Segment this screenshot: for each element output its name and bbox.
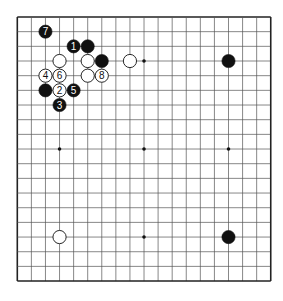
black-stone: 7 [39, 25, 52, 38]
white-stone: 8 [95, 69, 108, 82]
stone-disc [123, 54, 136, 67]
stone-disc [222, 54, 235, 67]
go-board: 71468253 [0, 0, 283, 301]
black-stone [222, 230, 235, 243]
black-stone [81, 40, 94, 53]
move-number: 7 [43, 26, 49, 37]
black-stone [222, 54, 235, 67]
black-stone [39, 84, 52, 97]
move-number: 6 [57, 70, 63, 81]
stone-disc [81, 40, 94, 53]
white-stone: 2 [53, 84, 66, 97]
black-stone: 5 [67, 84, 80, 97]
move-number: 3 [57, 100, 63, 111]
black-stone: 3 [53, 98, 66, 111]
star-point [58, 147, 62, 151]
star-point [142, 147, 146, 151]
stone-disc [81, 69, 94, 82]
star-point [227, 147, 231, 151]
white-stone: 4 [39, 69, 52, 82]
star-point [142, 59, 146, 63]
white-stone [81, 69, 94, 82]
black-stone: 1 [67, 40, 80, 53]
stone-disc [81, 54, 94, 67]
move-number: 4 [43, 70, 49, 81]
move-number: 2 [57, 85, 63, 96]
move-number: 5 [71, 85, 77, 96]
stone-disc [39, 84, 52, 97]
white-stone [53, 54, 66, 67]
stone-disc [95, 54, 108, 67]
move-number: 8 [99, 70, 105, 81]
white-stone [81, 54, 94, 67]
move-number: 1 [71, 41, 77, 52]
black-stone [95, 54, 108, 67]
stone-disc [53, 230, 66, 243]
star-point [142, 235, 146, 239]
stone-disc [53, 54, 66, 67]
stone-disc [222, 230, 235, 243]
white-stone [53, 230, 66, 243]
white-stone [123, 54, 136, 67]
white-stone: 6 [53, 69, 66, 82]
